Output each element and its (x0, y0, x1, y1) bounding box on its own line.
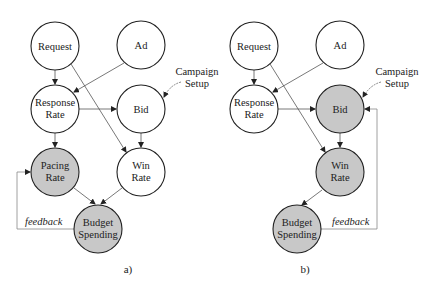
campaign-setup-label: Campaign (175, 66, 219, 77)
campaign-setup-label: Campaign (375, 66, 419, 77)
svg-text:Rate: Rate (45, 172, 65, 183)
svg-text:Response: Response (234, 97, 275, 108)
svg-text:Response: Response (35, 97, 76, 108)
campaign-setup-pointer (363, 82, 381, 97)
campaign-setup-pointer (164, 82, 181, 97)
node-response-rate: Response Rate (230, 85, 278, 133)
svg-text:Bid: Bid (332, 104, 348, 115)
svg-text:Budget: Budget (83, 217, 113, 228)
svg-text:Ad: Ad (334, 40, 348, 51)
node-win-rate: Win Rate (316, 148, 364, 196)
edge-ad-response (273, 63, 323, 92)
node-request: Request (31, 22, 79, 70)
node-bid: Bid (117, 85, 165, 133)
diagram-b: Request Ad Response Rate Bid Win Rate Bu… (230, 21, 419, 276)
svg-text:Win: Win (331, 160, 349, 171)
svg-text:Bid: Bid (133, 104, 149, 115)
svg-text:Rate: Rate (131, 172, 151, 183)
svg-text:Spending: Spending (78, 229, 118, 240)
svg-text:Win: Win (132, 160, 150, 171)
node-bid: Bid (316, 85, 364, 133)
node-budget-spending: Budget Spending (273, 205, 321, 253)
svg-text:Ad: Ad (135, 40, 149, 51)
edge-ad-response (74, 63, 124, 92)
campaign-setup-label-2: Setup (385, 78, 409, 89)
svg-text:Rate: Rate (330, 172, 350, 183)
node-ad: Ad (117, 21, 165, 69)
svg-text:Request: Request (237, 41, 271, 52)
feedback-label: feedback (332, 216, 370, 227)
edge-pacing-budget (74, 188, 95, 204)
caption-b: b) (300, 263, 310, 276)
node-ad: Ad (316, 21, 364, 69)
caption-a: a) (124, 263, 133, 276)
diagram-canvas: Request Ad Response Rate Bid Pacing Rate… (0, 0, 442, 295)
svg-text:Pacing: Pacing (41, 160, 70, 171)
svg-text:Spending: Spending (277, 229, 317, 240)
svg-text:Request: Request (38, 41, 72, 52)
node-budget-spending: Budget Spending (74, 205, 122, 253)
edge-win-budget (302, 190, 322, 205)
svg-text:Budget: Budget (282, 217, 312, 228)
node-response-rate: Response Rate (31, 85, 79, 133)
node-pacing-rate: Pacing Rate (31, 148, 79, 196)
node-request: Request (230, 22, 278, 70)
svg-text:Rate: Rate (244, 109, 264, 120)
diagram-a: Request Ad Response Rate Bid Pacing Rate… (17, 21, 219, 276)
campaign-setup-label-2: Setup (185, 78, 209, 89)
node-win-rate: Win Rate (117, 148, 165, 196)
feedback-label: feedback (25, 216, 63, 227)
svg-text:Rate: Rate (45, 109, 65, 120)
edge-win-budget (101, 188, 122, 204)
